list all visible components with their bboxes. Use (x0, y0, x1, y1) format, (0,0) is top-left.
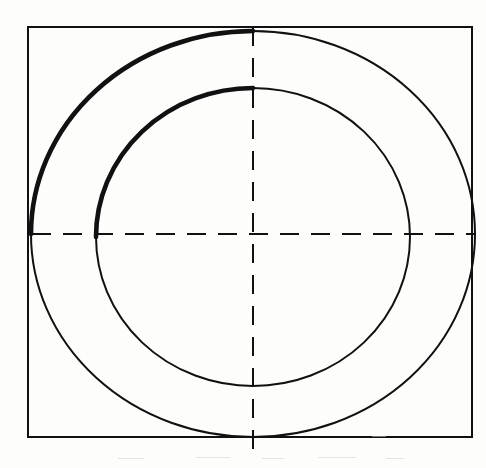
geometric-line-drawing (0, 0, 486, 468)
inner-circle-heavy-arc (96, 88, 253, 237)
figure-page (0, 0, 486, 468)
